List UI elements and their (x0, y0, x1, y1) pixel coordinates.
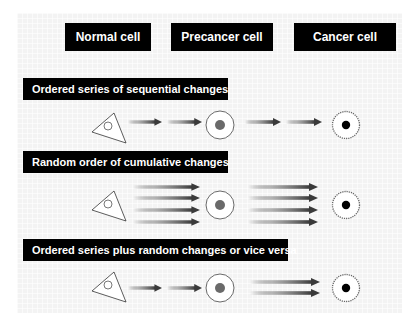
arrow-icon (133, 194, 200, 202)
arrow-icon (250, 289, 320, 297)
section-mixed-row (92, 272, 360, 302)
cancer-cell-icon (333, 112, 360, 139)
arrow-icon (248, 218, 318, 226)
precancer-cell-icon (206, 274, 234, 302)
arrow-icon (133, 206, 200, 214)
arrow-icon (128, 118, 162, 126)
cancer-cell-icon (333, 192, 360, 219)
arrow-icon (248, 206, 318, 214)
precancer-cell-icon (206, 111, 234, 139)
arrow-icon (286, 118, 322, 126)
normal-cell-icon (92, 272, 126, 302)
arrow-icon (245, 118, 281, 126)
arrow-icon (250, 278, 320, 286)
cell-progression-diagram (0, 0, 416, 326)
arrow-icon (167, 284, 202, 292)
arrow-icon (128, 284, 162, 292)
arrow-icon (167, 118, 202, 126)
arrow-icon (133, 183, 200, 191)
arrow-icon (248, 183, 318, 191)
arrow-icon (248, 194, 318, 202)
normal-cell-icon (92, 191, 126, 221)
normal-cell-icon (92, 113, 126, 143)
section-sequential-row (92, 111, 360, 143)
arrow-icon (133, 218, 200, 226)
section-random-row (92, 183, 360, 226)
precancer-cell-icon (206, 191, 234, 219)
cancer-cell-icon (333, 275, 360, 302)
